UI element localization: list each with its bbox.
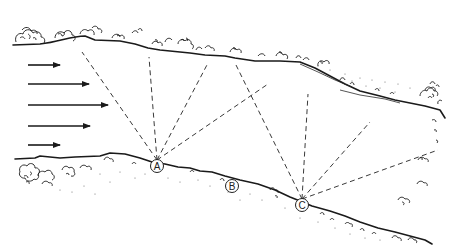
- survey-points: ABC: [151, 160, 309, 212]
- river-diagram: ABC: [0, 0, 451, 251]
- lower-bank-stipple: [60, 172, 381, 241]
- sight-line-a: [149, 57, 157, 160]
- point-label: A: [154, 161, 161, 172]
- sight-line-c: [302, 150, 438, 199]
- point-c: C: [296, 199, 309, 212]
- lower-bank-foliage: [19, 157, 416, 243]
- lower-bank: [15, 153, 432, 244]
- flow-arrows: [28, 65, 108, 145]
- sight-lines: [82, 52, 438, 199]
- point-b: B: [226, 180, 239, 193]
- sight-line-c: [302, 122, 370, 199]
- point-label: B: [229, 181, 236, 192]
- upper-bank-foliage: [16, 26, 442, 104]
- point-a: A: [151, 160, 164, 173]
- point-label: C: [298, 200, 305, 211]
- sight-line-a: [157, 63, 208, 160]
- right-bank-foliage: [398, 120, 438, 205]
- sight-line-c: [236, 65, 302, 199]
- sight-line-c: [302, 94, 308, 199]
- upper-bank-stipple: [318, 66, 411, 93]
- sight-line-a: [82, 52, 157, 160]
